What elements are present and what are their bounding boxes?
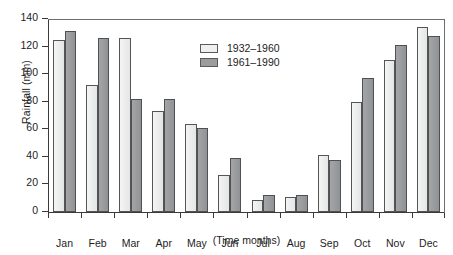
plot-frame-right [444,19,445,213]
legend-item: 1961–1990 [200,56,280,68]
legend: 1932–1960 1961–1990 [200,42,280,70]
bar-sep-1961-1990 [329,160,341,212]
bar-apr-1961-1990 [164,99,176,212]
legend-label-1961-1990: 1961–1990 [227,56,280,68]
bar-mar-1961-1990 [131,99,143,212]
y-axis-tick: 40 [42,156,48,157]
x-axis-tick [213,213,214,218]
rainfall-bar-chart: Rainfall (mm) 020406080100120140 JanFebM… [0,0,453,255]
bar-jan-1961-1990 [65,31,77,212]
bar-nov-1932-1960 [384,60,396,212]
y-axis-tick: 20 [42,183,48,184]
x-axis-caption: (Time months) [48,234,445,246]
y-axis-tick: 0 [42,211,48,212]
legend-swatch-1961-1990 [200,58,218,67]
y-axis-tick-label: 20 [26,176,38,188]
bar-jul-1932-1960 [252,200,264,212]
legend-swatch-1932-1960 [200,44,218,53]
y-axis-tick-label: 140 [20,11,38,23]
bar-aug-1961-1990 [296,195,308,212]
x-axis-tick [379,213,380,218]
y-axis-tick: 80 [42,101,48,102]
x-axis-tick [114,213,115,218]
plot-frame-top [48,19,445,20]
x-axis-tick [180,213,181,218]
bar-dec-1932-1960 [417,27,429,212]
bar-feb-1961-1990 [98,38,110,212]
x-axis-tick [147,213,148,218]
legend-label-1932-1960: 1932–1960 [227,42,280,54]
y-axis-spine [48,19,49,213]
y-axis-tick-label: 60 [26,121,38,133]
bar-apr-1932-1960 [152,111,164,212]
page-bottom-margin [0,250,453,255]
y-axis-tick-label: 80 [26,94,38,106]
y-axis-tick-label: 0 [32,204,38,216]
bar-sep-1932-1960 [318,155,330,212]
y-axis-tick-label: 120 [20,39,38,51]
legend-item: 1932–1960 [200,42,280,54]
y-axis-tick-label: 100 [20,66,38,78]
bar-oct-1932-1960 [351,102,363,212]
x-axis-tick [346,213,347,218]
bar-jul-1961-1990 [263,195,275,212]
y-axis-tick: 120 [42,46,48,47]
x-axis-tick [412,213,413,218]
bar-feb-1932-1960 [86,85,98,212]
y-axis-tick: 100 [42,73,48,74]
x-axis-tick [313,213,314,218]
x-axis-tick [280,213,281,218]
bar-may-1932-1960 [185,124,197,212]
bar-aug-1932-1960 [285,197,297,212]
bar-jan-1932-1960 [53,40,65,212]
x-axis-tick [247,213,248,218]
y-axis-tick: 60 [42,128,48,129]
bar-oct-1961-1990 [362,78,374,212]
plot-area: 020406080100120140 JanFebMarAprMayJunJul… [48,19,445,213]
x-axis-tick [444,213,445,218]
x-axis-tick [81,213,82,218]
bar-mar-1932-1960 [119,38,131,212]
x-axis-tick [48,213,49,218]
y-axis-tick-label: 40 [26,149,38,161]
bar-dec-1961-1990 [428,36,440,212]
y-axis-tick: 140 [42,18,48,19]
bar-jun-1932-1960 [218,175,230,212]
bar-nov-1961-1990 [395,45,407,212]
bar-jun-1961-1990 [230,158,242,212]
bar-may-1961-1990 [197,128,209,212]
